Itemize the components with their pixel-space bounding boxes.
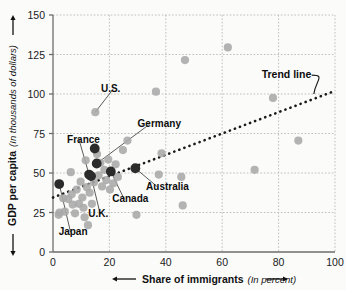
y-tick-label: 150 xyxy=(27,9,45,21)
y-axis-arrow-top-head xyxy=(10,15,15,20)
y-tick-label: 50 xyxy=(33,167,45,179)
data-point xyxy=(71,209,79,217)
data-point xyxy=(67,168,75,176)
data-point xyxy=(177,173,185,181)
data-point xyxy=(294,137,302,145)
x-tick-label: 80 xyxy=(273,256,285,268)
data-point xyxy=(152,88,160,96)
chart-canvas: 0255075100125150020406080100U.S.GermanyF… xyxy=(0,0,346,290)
data-point xyxy=(82,156,90,164)
data-point xyxy=(179,201,187,209)
annotation-label: France xyxy=(67,134,100,145)
y-tick-label: 25 xyxy=(33,207,45,219)
data-point xyxy=(181,56,189,64)
data-point xyxy=(269,94,277,102)
data-point xyxy=(114,173,122,181)
data-point-highlighted xyxy=(106,167,116,177)
x-tick-label: 0 xyxy=(50,256,56,268)
x-tick-label: 100 xyxy=(326,256,344,268)
y-axis-arrow-bottom-head xyxy=(10,251,15,256)
x-axis-arrow-left-head xyxy=(112,276,117,281)
annotation-label: U.S. xyxy=(101,83,121,94)
data-point xyxy=(88,200,96,208)
scatter-chart: 0255075100125150020406080100U.S.GermanyF… xyxy=(0,0,346,290)
y-tick-label: 125 xyxy=(27,49,45,61)
y-axis-unit: (In thousands of dollars) xyxy=(7,45,18,147)
data-point-highlighted xyxy=(90,144,100,154)
data-point xyxy=(119,146,127,154)
data-point-highlighted xyxy=(54,179,64,189)
data-point xyxy=(73,185,81,193)
data-point xyxy=(78,193,86,201)
x-tick-label: 60 xyxy=(216,256,228,268)
data-point-highlighted xyxy=(92,159,102,169)
y-axis-title: GDP per capita(In thousands of dollars) xyxy=(6,45,18,226)
data-point xyxy=(132,211,140,219)
data-point xyxy=(102,176,110,184)
data-point xyxy=(123,137,131,145)
data-point xyxy=(155,170,163,178)
annotation-label: Japan xyxy=(59,226,88,237)
y-tick-label: 75 xyxy=(33,128,45,140)
data-point xyxy=(77,178,85,186)
y-tick-label: 100 xyxy=(27,88,45,100)
annotation-label: Canada xyxy=(112,193,149,204)
data-point xyxy=(91,108,99,116)
data-point xyxy=(157,149,165,157)
data-point xyxy=(79,204,87,212)
x-tick-label: 40 xyxy=(160,256,172,268)
y-tick-label: 0 xyxy=(39,246,45,258)
data-point xyxy=(224,43,232,51)
x-tick-label: 20 xyxy=(104,256,116,268)
annotation-label: Trend line xyxy=(262,68,312,80)
data-point xyxy=(86,189,94,197)
annotation-label: Germany xyxy=(138,118,182,129)
annotation-label: Australia xyxy=(146,181,189,192)
data-point xyxy=(251,166,259,174)
data-point xyxy=(61,208,69,216)
data-point-highlighted xyxy=(86,171,96,181)
data-point xyxy=(104,155,112,163)
annotation-label: U.K. xyxy=(88,208,108,219)
data-point-highlighted xyxy=(130,163,140,173)
